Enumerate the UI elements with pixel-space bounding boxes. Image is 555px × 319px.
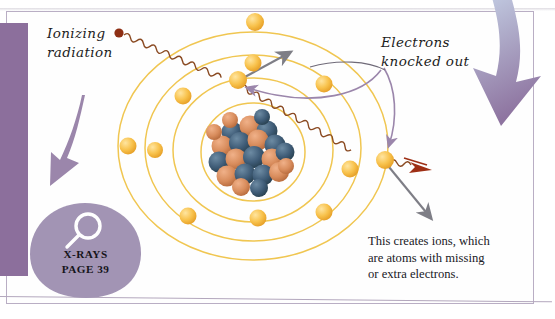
left-purple-arrow-icon: [50, 95, 85, 186]
diagram-page: X-RAYS PAGE 39 Ionizing radiation Electr…: [0, 0, 555, 319]
pointer-arrow-to-struck-electron: [248, 70, 381, 98]
motion-arrow-down: [389, 167, 430, 217]
label-electrons-knocked-out: Electrons knocked out: [381, 33, 469, 71]
electron-left-inner: [147, 142, 163, 158]
atom-nucleus: [206, 109, 295, 197]
label-underline: [310, 62, 385, 70]
electron-right-inner: [342, 161, 359, 178]
electron-right-mid: [316, 76, 333, 93]
electron-bottom-mid: [250, 210, 267, 227]
electron-bottom-left: [180, 208, 197, 225]
electron-top-inner: [245, 55, 262, 72]
right-gradient-arrow-icon: [473, 0, 541, 126]
label-ionizing-radiation: Ionizing radiation: [47, 24, 113, 62]
xrays-callout-label: X-RAYS PAGE 39: [29, 247, 142, 277]
pointer-arrow-to-ejected-electron: [384, 68, 395, 145]
electron-struck: [229, 71, 247, 89]
electron-top-outer: [246, 13, 264, 31]
incoming-radiation-ray: [114, 28, 225, 78]
electron-upper-left: [175, 88, 192, 105]
electron-bottom-right: [316, 204, 333, 221]
electron-ejected: [376, 151, 394, 169]
caption-text: This creates ions, which are atoms with …: [368, 233, 538, 283]
electron-far-left: [120, 138, 137, 155]
